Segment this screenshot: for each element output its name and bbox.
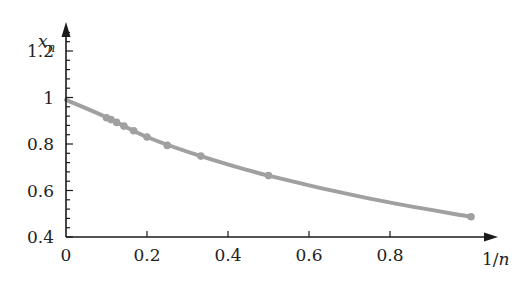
x-tick-label: 0.8 bbox=[376, 245, 403, 265]
x-tick-label: 0.2 bbox=[133, 245, 160, 265]
data-point bbox=[130, 127, 138, 135]
data-point bbox=[163, 142, 171, 150]
data-points bbox=[103, 114, 475, 221]
y-tick-label: 0.8 bbox=[27, 134, 54, 154]
axis-labels: xn 1/n bbox=[38, 31, 510, 269]
y-tick-label: 1 bbox=[43, 88, 54, 108]
axes: 00.20.40.60.80.40.60.811.2 bbox=[27, 22, 498, 265]
y-tick-label: 0.6 bbox=[27, 181, 54, 201]
series-line bbox=[66, 100, 471, 217]
x-axis-arrow-icon bbox=[484, 233, 498, 242]
data-point bbox=[143, 133, 151, 141]
line-chart: 00.20.40.60.80.40.60.811.2 xn 1/n bbox=[0, 0, 519, 285]
y-axis-arrow-icon bbox=[62, 22, 71, 37]
data-point bbox=[113, 119, 121, 127]
data-point bbox=[467, 213, 475, 221]
data-point bbox=[265, 172, 273, 180]
x-tick-label: 0 bbox=[61, 245, 72, 265]
series-curve bbox=[66, 100, 471, 217]
data-point bbox=[197, 152, 205, 160]
x-tick-label: 0.6 bbox=[295, 245, 322, 265]
y-tick-label: 0.4 bbox=[27, 227, 54, 247]
x-tick-label: 0.4 bbox=[214, 245, 241, 265]
data-point bbox=[120, 122, 128, 130]
x-axis-label: 1/n bbox=[482, 249, 510, 269]
